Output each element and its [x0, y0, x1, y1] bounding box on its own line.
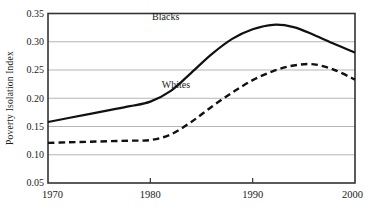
- y-axis-label-text: Poverty Isolation Index: [5, 51, 15, 145]
- y-tick-label: 0.05: [27, 177, 45, 188]
- y-tick-label: 0.25: [27, 64, 45, 75]
- chart-canvas: 0.050.100.150.200.250.300.35 19701980199…: [0, 0, 379, 214]
- series-label-whites: Whites: [162, 79, 190, 90]
- y-axis-label: Poverty Isolation Index: [5, 51, 15, 145]
- y-tick-label: 0.35: [27, 8, 45, 19]
- y-tick-label: 0.10: [27, 149, 45, 160]
- x-tick-label: 2000: [342, 189, 363, 200]
- series-label-blacks: Blacks: [152, 11, 179, 22]
- x-tick-label: 1970: [42, 189, 63, 200]
- x-tick-label: 1990: [242, 189, 263, 200]
- poverty-isolation-chart: 0.050.100.150.200.250.300.35 19701980199…: [0, 0, 379, 214]
- y-tick-label: 0.30: [27, 36, 45, 47]
- y-tick-label: 0.20: [27, 93, 45, 104]
- chart-background: [0, 0, 379, 214]
- x-tick-label: 1980: [140, 189, 161, 200]
- y-tick-label: 0.15: [27, 121, 45, 132]
